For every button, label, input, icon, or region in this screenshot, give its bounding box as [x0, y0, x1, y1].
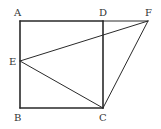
- geometry-diagram: A D F E B C: [0, 0, 161, 129]
- segment-cf: [103, 21, 148, 108]
- label-d: D: [99, 7, 107, 18]
- label-b: B: [14, 112, 21, 123]
- segment-ec: [20, 61, 103, 108]
- label-a: A: [13, 7, 22, 18]
- segment-ef: [20, 21, 148, 61]
- label-c: C: [99, 112, 107, 123]
- label-f: F: [145, 7, 152, 18]
- label-e: E: [9, 56, 16, 67]
